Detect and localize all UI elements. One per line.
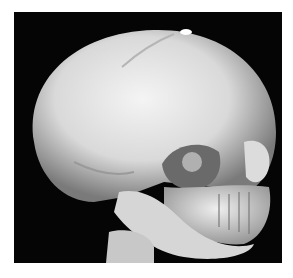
ct-skull-figure — [14, 12, 282, 263]
skull-rendering — [14, 12, 282, 263]
